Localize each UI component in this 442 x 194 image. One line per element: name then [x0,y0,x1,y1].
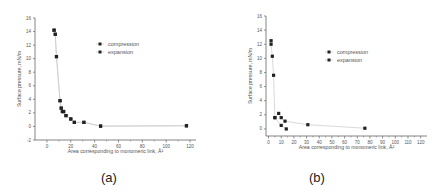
data-point-compression [272,74,275,77]
chart-b: 0246810121416010203040506070809010011012… [221,0,442,194]
data-point-expansion [52,29,55,32]
x-tick-label: 0 [267,140,270,145]
y-tick-label: 16 [257,14,263,19]
y-axis-label: Surface pressure, mN/m [247,48,253,104]
y-tick-label: 8 [28,70,31,75]
y-tick-label: 14 [26,29,32,34]
caption-a: (a) [101,170,117,185]
y-tick-label: 4 [28,97,31,102]
y-tick-label: 0 [28,124,31,129]
data-point-expansion [55,55,58,58]
y-tick-label: 12 [26,43,32,48]
y-tick-label: 10 [26,56,32,61]
series-line-expansion [275,118,286,129]
x-axis-label: Area corresponding to monomeric link, Å² [68,148,164,154]
x-tick-label: 0 [46,144,49,149]
legend-marker-expansion [99,51,102,54]
data-point-expansion [73,121,76,124]
data-point-expansion [285,127,288,130]
x-tick-label: 110 [404,140,412,145]
data-point-expansion [62,110,65,113]
y-tick-label: 8 [259,70,262,75]
legend-label-compression: compression [337,49,368,55]
data-point-compression [269,39,272,42]
caption-b: (b) [309,170,325,185]
y-tick-label: -2 [27,138,31,143]
y-tick-label: 6 [28,83,31,88]
data-point-compression [306,123,309,126]
data-point-expansion [54,33,57,36]
data-point-expansion [82,121,85,124]
chart-panel-b: 0246810121416010203040506070809010011012… [221,0,442,194]
data-point-compression [363,127,366,130]
x-tick-label: 10 [279,140,285,145]
legend-label-expansion: expansion [108,49,133,55]
y-tick-label: 10 [257,56,263,61]
data-point-expansion [69,117,72,120]
legend-label-expansion: expansion [337,57,362,63]
legend-marker-compression [328,51,331,54]
data-point-expansion [64,114,67,117]
data-point-compression [269,43,272,46]
legend-marker-compression [99,43,102,46]
y-axis-label: Surface pressure, mN/m [16,51,22,107]
x-tick-label: 20 [291,140,297,145]
x-tick-label: 120 [417,140,425,145]
y-tick-label: 6 [259,84,262,89]
y-tick-label: 2 [259,112,262,117]
y-tick-label: 12 [257,42,263,47]
y-tick-label: 4 [259,98,262,103]
y-tick-label: 2 [28,110,31,115]
chart-panel-a: -20246810121416020406080100120Area corre… [0,0,221,194]
data-point-expansion [273,116,276,119]
data-point-compression [283,120,286,123]
legend-label-compression: compression [108,41,139,47]
data-point-expansion [58,99,61,102]
y-tick-label: 16 [26,16,32,21]
legend-marker-expansion [328,59,331,62]
x-tick-label: 120 [186,144,194,149]
x-axis-label: Area corresponding to monomeric link, Å² [299,144,395,150]
data-point-expansion [185,124,188,127]
chart-a: -20246810121416020406080100120Area corre… [0,0,221,194]
x-tick-label: 100 [162,144,170,149]
data-point-expansion [99,125,102,128]
data-point-expansion [60,107,63,110]
data-point-compression [280,116,283,119]
y-tick-label: 0 [259,126,262,131]
data-point-compression [271,55,274,58]
data-point-compression [277,112,280,115]
data-point-expansion [280,124,283,127]
y-tick-label: 14 [257,28,263,33]
